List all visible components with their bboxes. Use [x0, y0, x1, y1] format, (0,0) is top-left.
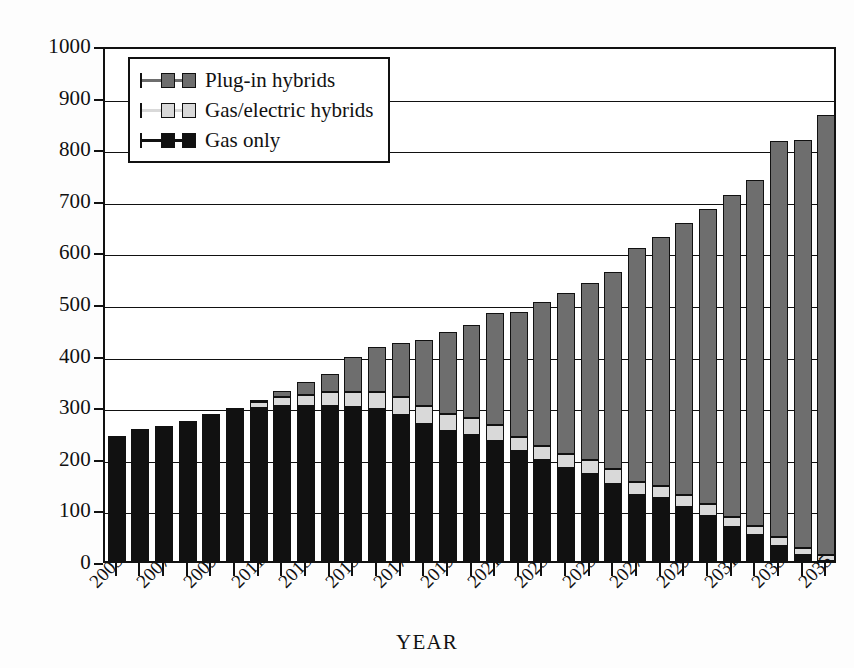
bar-segment-2017-plug-in-hybrids: [392, 343, 410, 397]
bar-segment-2035-plug-in-hybrids: [817, 115, 835, 555]
bar-segment-2023-gas-electric-hybrids: [533, 446, 551, 460]
bar-segment-2025-gas-electric-hybrids: [581, 460, 599, 474]
bar-2031: [723, 45, 741, 561]
y-tick-label-100: 100: [59, 500, 91, 521]
bar-2028: [652, 45, 670, 561]
bar-segment-2022-gas-only: [510, 451, 528, 561]
legend-label-gas-only: Gas only: [205, 130, 280, 151]
bar-segment-2029-plug-in-hybrids: [675, 223, 693, 495]
bar-2032: [746, 45, 764, 561]
chart-legend: Plug-in hybrids Gas/electric hybrids Gas…: [128, 57, 390, 163]
bar-segment-2014-gas-electric-hybrids: [321, 392, 339, 406]
bar-2030: [699, 45, 717, 561]
plug-in-hybrids-swatch: [140, 73, 196, 88]
bar-segment-2016-plug-in-hybrids: [368, 347, 386, 392]
y-tick-mark-800: [94, 150, 103, 152]
y-tick-mark-600: [94, 253, 103, 255]
bar-segment-2022-gas-electric-hybrids: [510, 437, 528, 451]
bar-segment-2021-gas-electric-hybrids: [486, 425, 504, 440]
y-tick-label-800: 800: [59, 139, 91, 160]
bar-segment-2031-plug-in-hybrids: [723, 195, 741, 518]
bar-segment-2014-gas-only: [321, 406, 339, 561]
bar-segment-2024-plug-in-hybrids: [557, 293, 575, 454]
y-tick-mark-500: [94, 305, 103, 307]
bar-segment-2017-gas-only: [392, 415, 410, 561]
bar-segment-2020-gas-only: [463, 435, 481, 561]
bar-segment-2033-gas-electric-hybrids: [770, 537, 788, 545]
bar-segment-2027-plug-in-hybrids: [628, 248, 646, 481]
bar-segment-2011-gas-electric-hybrids: [250, 402, 268, 408]
bar-segment-2024-gas-only: [557, 468, 575, 561]
legend-item-gas-electric-hybrids: Gas/electric hybrids: [140, 96, 374, 124]
bar-segment-2034-plug-in-hybrids: [794, 140, 812, 548]
y-tick-label-1000: 1000: [48, 36, 91, 57]
bar-segment-2030-gas-only: [699, 516, 717, 561]
y-tick-label-600: 600: [59, 242, 91, 263]
bar-segment-2012-plug-in-hybrids: [273, 391, 291, 397]
bar-segment-2028-gas-electric-hybrids: [652, 486, 670, 498]
bar-segment-2021-plug-in-hybrids: [486, 313, 504, 425]
x-axis-title: YEAR: [0, 630, 854, 655]
y-tick-mark-700: [94, 202, 103, 204]
bar-segment-2015-gas-electric-hybrids: [344, 392, 362, 407]
bar-2034: [794, 45, 812, 561]
bar-2035: [817, 45, 835, 561]
y-tick-mark-300: [94, 408, 103, 410]
y-tick-mark-100: [94, 511, 103, 513]
gas-electric-hybrids-swatch: [140, 103, 196, 118]
legend-label-plug-in-hybrids: Plug-in hybrids: [205, 70, 335, 91]
bar-segment-2005-gas-only: [108, 436, 126, 561]
bar-segment-2011-plug-in-hybrids: [250, 400, 268, 402]
bar-segment-2032-gas-only: [746, 535, 764, 561]
bar-segment-2022-plug-in-hybrids: [510, 312, 528, 437]
bar-segment-2018-plug-in-hybrids: [415, 340, 433, 406]
bar-segment-2015-gas-only: [344, 407, 362, 561]
bar-segment-2010-gas-electric-hybrids: [226, 408, 244, 411]
bar-segment-2008-gas-only: [179, 421, 197, 561]
legend-item-plug-in-hybrids: Plug-in hybrids: [140, 66, 374, 94]
y-tick-label-900: 900: [59, 88, 91, 109]
gas-only-swatch: [140, 133, 196, 148]
bar-2024: [557, 45, 575, 561]
chart-figure: Millions of automobiles 0100200300400500…: [0, 0, 854, 668]
y-tick-label-0: 0: [80, 552, 91, 573]
bar-segment-2009-gas-only: [202, 414, 220, 561]
y-tick-mark-400: [94, 357, 103, 359]
bar-segment-2016-gas-electric-hybrids: [368, 392, 386, 409]
bar-segment-2024-gas-electric-hybrids: [557, 454, 575, 468]
bar-2026: [604, 45, 622, 561]
bar-2021: [486, 45, 504, 561]
bar-segment-2034-gas-electric-hybrids: [794, 548, 812, 555]
y-axis: 01002003004005006007008009001000: [0, 0, 103, 668]
bar-segment-2007-gas-only: [155, 426, 173, 561]
bar-segment-2012-gas-electric-hybrids: [273, 397, 291, 406]
y-tick-mark-900: [94, 99, 103, 101]
bar-2033: [770, 45, 788, 561]
bar-segment-2023-gas-only: [533, 460, 551, 561]
bar-segment-2011-gas-only: [250, 408, 268, 561]
bar-segment-2032-plug-in-hybrids: [746, 180, 764, 526]
bar-segment-2025-plug-in-hybrids: [581, 283, 599, 459]
y-tick-label-200: 200: [59, 449, 91, 470]
y-tick-label-700: 700: [59, 191, 91, 212]
bar-segment-2021-gas-only: [486, 441, 504, 561]
bar-segment-2032-gas-electric-hybrids: [746, 526, 764, 535]
bar-segment-2019-plug-in-hybrids: [439, 332, 457, 414]
bar-segment-2015-plug-in-hybrids: [344, 357, 362, 392]
bar-segment-2016-gas-only: [368, 409, 386, 561]
bar-2022: [510, 45, 528, 561]
bar-segment-2027-gas-electric-hybrids: [628, 482, 646, 495]
bar-segment-2014-plug-in-hybrids: [321, 374, 339, 392]
bar-2023: [533, 45, 551, 561]
bar-segment-2018-gas-electric-hybrids: [415, 406, 433, 424]
bar-segment-2026-gas-only: [604, 484, 622, 561]
bar-segment-2028-plug-in-hybrids: [652, 237, 670, 486]
y-tick-mark-200: [94, 460, 103, 462]
bar-segment-2019-gas-only: [439, 431, 457, 561]
bar-segment-2013-plug-in-hybrids: [297, 382, 315, 395]
bar-segment-2028-gas-only: [652, 498, 670, 561]
legend-item-gas-only: Gas only: [140, 126, 374, 154]
bar-segment-2026-gas-electric-hybrids: [604, 469, 622, 483]
bar-2025: [581, 45, 599, 561]
bar-2017: [392, 45, 410, 561]
